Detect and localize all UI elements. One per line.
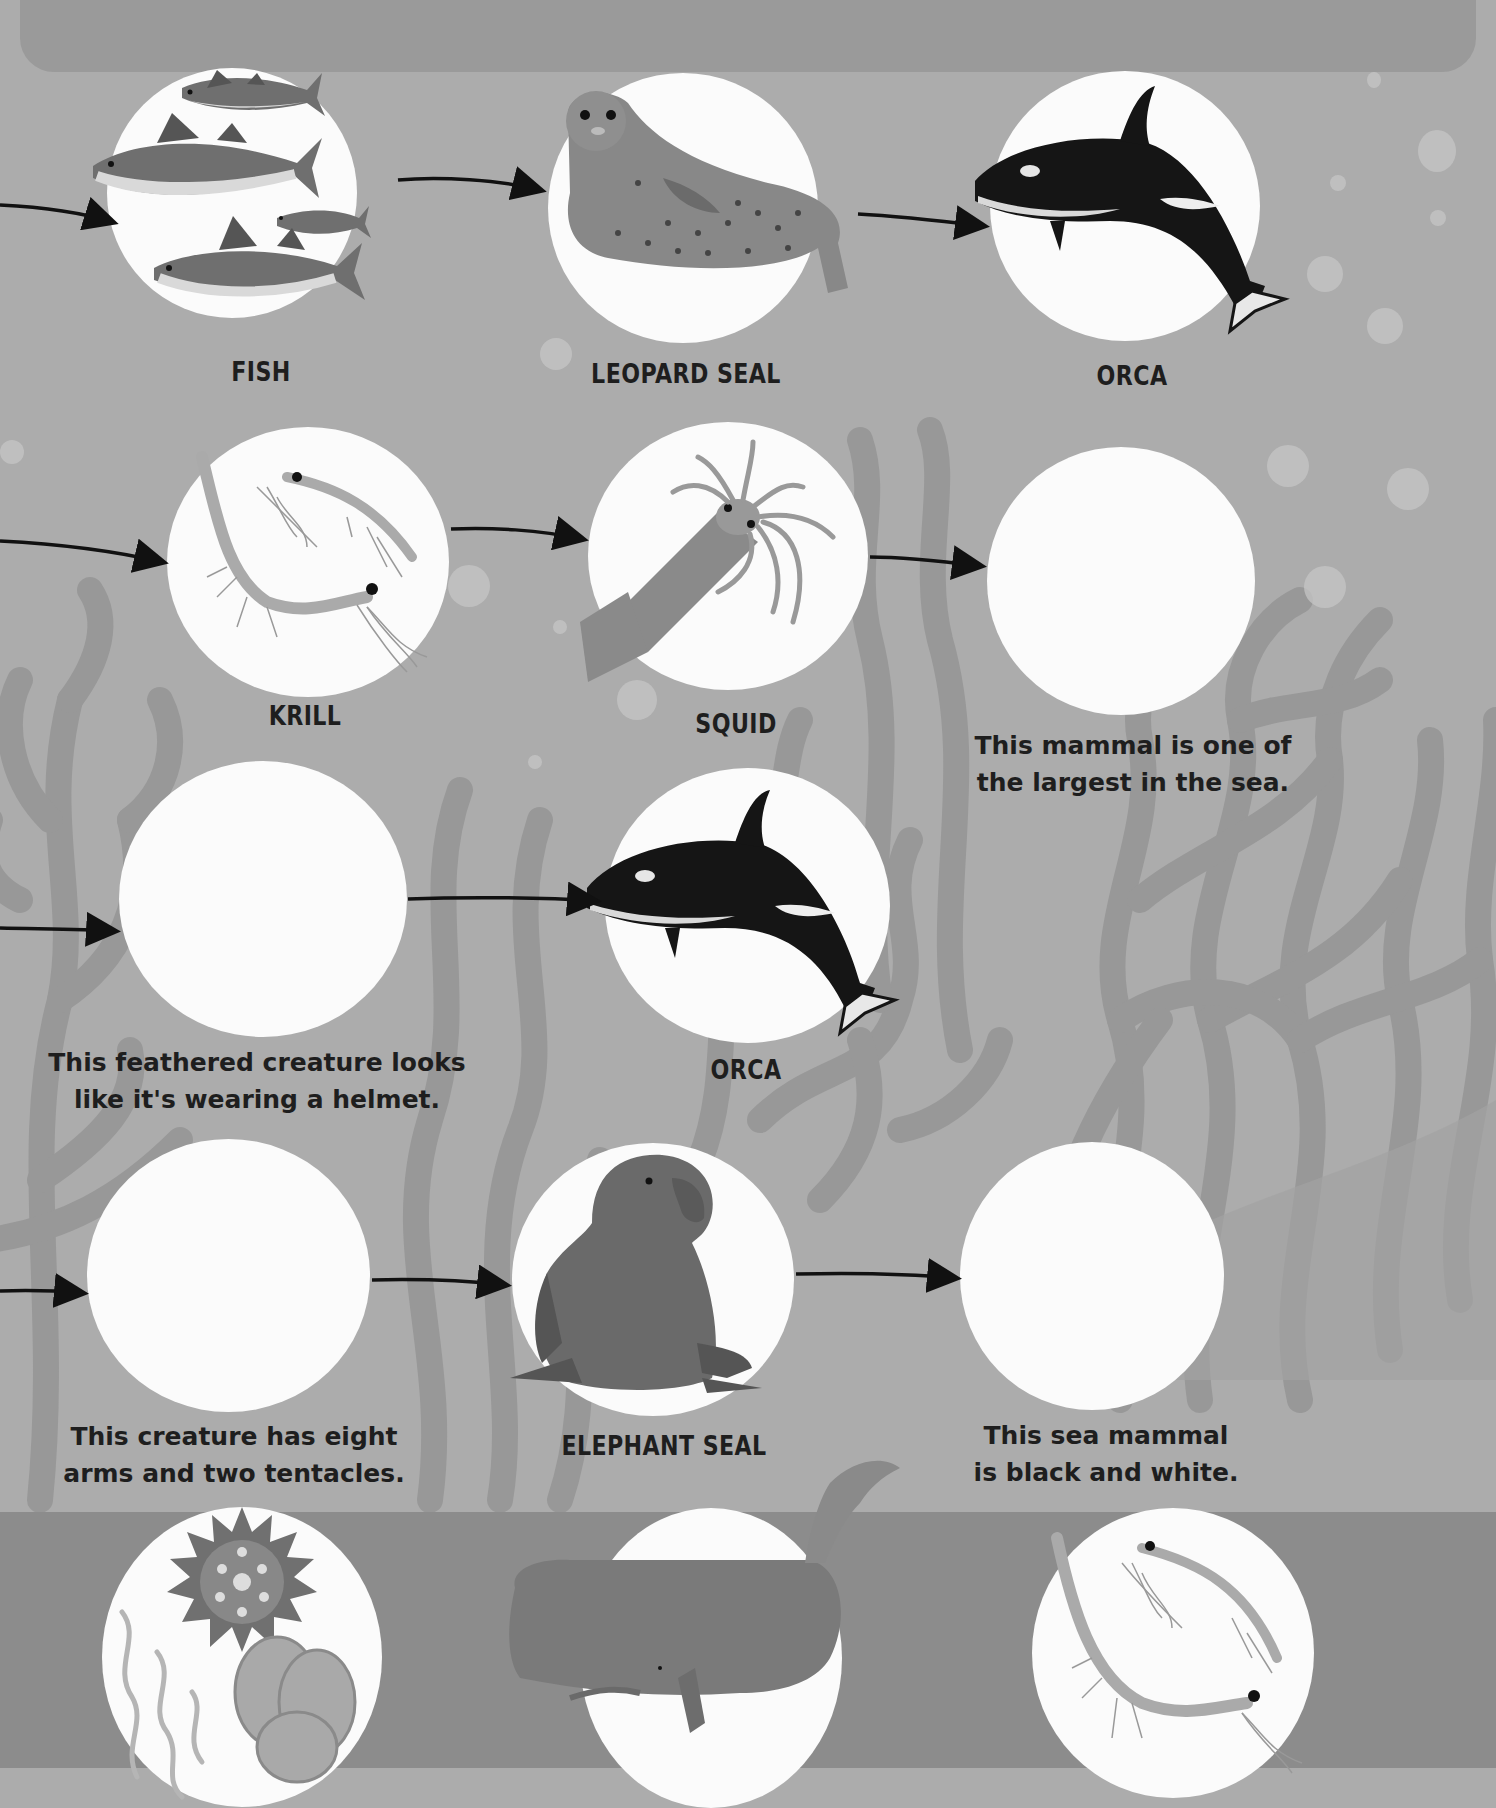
bubble (1418, 130, 1456, 172)
bubble (1387, 468, 1429, 510)
food-chain-node-blank-large-mammal[interactable] (987, 447, 1255, 715)
answer-option-sperm-whale[interactable] (580, 1508, 842, 1808)
bubble (1267, 445, 1309, 487)
bubble (1304, 566, 1346, 608)
bubble (1367, 308, 1403, 344)
food-chain-node-orca (990, 71, 1260, 341)
bubble (448, 565, 490, 607)
bubble (1367, 72, 1381, 88)
label-krill: KRILL (269, 700, 342, 731)
food-chain-node-krill (167, 427, 449, 697)
fish-school-icon (107, 68, 357, 318)
answer-option-krill[interactable] (1032, 1508, 1314, 1798)
label-fish: FISH (231, 356, 290, 387)
food-chain-node-orca-2 (605, 768, 890, 1043)
food-chain-node-leopard-seal (548, 73, 818, 343)
orca-icon (990, 71, 1260, 341)
label-squid: SQUID (695, 708, 776, 739)
leopard-seal-icon (548, 73, 818, 343)
food-chain-node-fish (107, 68, 357, 318)
food-chain-node-blank-feathered[interactable] (119, 761, 407, 1037)
clue-large-mammal: This mammal is one of the largest in the… (974, 727, 1291, 801)
food-chain-node-blank-black-white[interactable] (960, 1142, 1224, 1410)
bubble (1330, 175, 1346, 191)
clue-black-and-white: This sea mammal is black and white. (974, 1417, 1239, 1491)
sperm-whale-icon (580, 1508, 842, 1808)
clue-feathered-creature: This feathered creature looks like it's … (48, 1044, 465, 1118)
elephant-seal-icon (512, 1143, 794, 1416)
label-orca-2: ORCA (711, 1054, 782, 1085)
krill-icon (1032, 1508, 1314, 1798)
label-orca: ORCA (1097, 360, 1168, 391)
squid-icon (588, 422, 868, 690)
bubble (1430, 210, 1446, 226)
food-chain-node-squid (588, 422, 868, 690)
bubble (553, 620, 567, 634)
food-chain-node-blank-eight-arms[interactable] (87, 1139, 370, 1412)
label-elephant-seal: ELEPHANT SEAL (561, 1430, 766, 1461)
bubble (528, 755, 542, 769)
krill-icon (167, 427, 449, 697)
bubble (1307, 256, 1343, 292)
answer-option-plankton[interactable] (102, 1507, 382, 1807)
orca-icon (605, 768, 890, 1043)
bubble (0, 440, 24, 464)
food-chain-node-elephant-seal (512, 1143, 794, 1416)
label-leopard-seal: LEOPARD SEAL (591, 358, 781, 389)
clue-eight-arms: This creature has eight arms and two ten… (63, 1418, 404, 1492)
plankton-icon (102, 1507, 382, 1807)
